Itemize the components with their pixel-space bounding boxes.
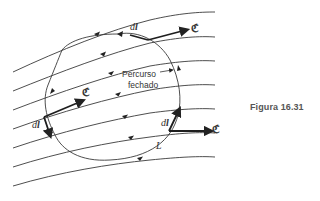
arrow-icon: [137, 157, 143, 162]
loop-arrow-icon: [50, 88, 55, 94]
field-vector-left: [44, 101, 82, 117]
arrow-icon: [100, 52, 106, 57]
arrow-icon: [115, 92, 121, 97]
label-pointer: [160, 70, 172, 72]
closed-path-label-line2: fechado: [128, 80, 159, 90]
field-line-7: [13, 157, 215, 186]
loop-arrow-icon: [177, 65, 181, 71]
field-symbol-bottom-right: ℭ: [212, 123, 220, 135]
field-line-2: [13, 37, 215, 91]
dl-vector-bottom-right: [169, 110, 179, 131]
loop-arrow-icon: [117, 31, 123, 37]
figure-caption: Figura 16.31: [250, 102, 304, 112]
field-line-4: [13, 85, 215, 129]
arrow-icon: [108, 71, 114, 76]
field-symbol-left: ℭ: [82, 86, 90, 98]
field-symbol-top: ℭ: [191, 22, 199, 34]
electric-field-diagram: dl dl dl ℭ ℭ ℭ Percurso fechado L: [0, 0, 320, 201]
field-line-6: [13, 133, 215, 167]
dl-label-bottom-right: dl: [161, 117, 169, 128]
closed-path-label-line1: Percurso: [122, 69, 156, 79]
dl-vector-left: [44, 117, 50, 135]
dl-label-left: dl: [32, 119, 40, 130]
path-name-label: L: [155, 140, 162, 151]
dl-label-top: dl: [130, 21, 138, 32]
field-line-1: [13, 12, 215, 72]
